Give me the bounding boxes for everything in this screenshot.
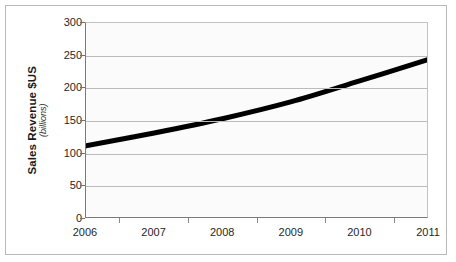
y-axis-tick-label: 50: [46, 179, 82, 191]
gridline: [86, 88, 427, 89]
gridline: [86, 121, 427, 122]
x-axis-tick-mark: [394, 218, 395, 223]
x-axis-tick-mark: [325, 218, 326, 223]
y-axis-tick-label: 100: [46, 147, 82, 159]
x-axis-tick-mark: [188, 218, 189, 223]
plot-area: [85, 22, 428, 218]
gridline: [86, 56, 427, 57]
y-axis-tick-mark: [80, 218, 85, 219]
gridline: [86, 186, 427, 187]
y-axis-tick-mark: [80, 185, 85, 186]
y-axis-tick-label: 0: [46, 212, 82, 224]
y-axis-tick-label: 200: [46, 81, 82, 93]
y-axis-title-main: Sales Revenue $US: [26, 66, 38, 174]
series-line-sales-revenue: [86, 23, 427, 217]
data-line: [86, 60, 427, 146]
x-axis-tick-label: 2006: [55, 226, 115, 238]
x-axis-tick-mark: [257, 218, 258, 223]
x-axis-tick-label: 2007: [124, 226, 184, 238]
y-axis-tick-mark: [80, 120, 85, 121]
y-axis-tick-label: 250: [46, 49, 82, 61]
y-axis-tick-label: 150: [46, 114, 82, 126]
y-axis-tick-mark: [80, 22, 85, 23]
x-axis-tick-label: 2011: [398, 226, 456, 238]
y-axis-tick-mark: [80, 55, 85, 56]
x-axis-tick-mark: [119, 218, 120, 223]
x-axis-tick-label: 2010: [329, 226, 389, 238]
gridline: [86, 154, 427, 155]
y-axis-tick-labels: 050100150200250300: [44, 0, 82, 262]
y-axis-tick-label: 300: [46, 16, 82, 28]
x-axis-tick-label: 2008: [192, 226, 252, 238]
y-axis-tick-mark: [80, 153, 85, 154]
x-axis-tick-label: 2009: [261, 226, 321, 238]
y-axis-tick-mark: [80, 87, 85, 88]
x-axis-tick-labels: 200620072008200920102011: [85, 226, 428, 244]
chart-figure: Sales Revenue $US (billions) 05010015020…: [0, 0, 456, 262]
